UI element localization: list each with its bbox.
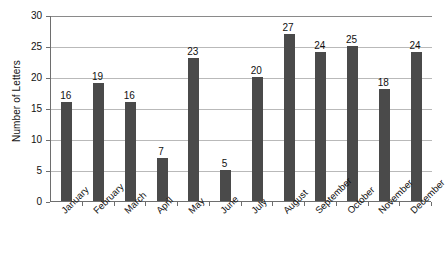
y-axis-tick-mark <box>46 202 50 203</box>
bar-value-label: 24 <box>400 40 430 51</box>
bar-value-label: 23 <box>178 46 208 57</box>
y-axis-tick-mark <box>46 16 50 17</box>
y-axis-tick-label: 5 <box>22 166 42 176</box>
bar-value-label: 5 <box>210 158 240 169</box>
x-axis-tick-mark <box>304 202 305 206</box>
y-axis-tick-mark <box>46 109 50 110</box>
y-axis-tick-label: 10 <box>22 135 42 145</box>
y-axis-tick-label: 25 <box>22 42 42 52</box>
bar-value-label: 20 <box>241 65 271 76</box>
bar-value-label: 7 <box>146 146 176 157</box>
gridline <box>51 171 432 172</box>
x-axis-tick-mark <box>336 202 337 206</box>
x-axis-tick-mark <box>368 202 369 206</box>
bar-value-label: 27 <box>273 22 303 33</box>
y-axis-tick-mark <box>46 47 50 48</box>
x-axis-tick-mark <box>209 202 210 206</box>
gridline <box>51 47 432 48</box>
x-axis-tick-mark <box>241 202 242 206</box>
bar <box>379 89 390 201</box>
bar <box>252 77 263 201</box>
y-axis-tick-mark <box>46 140 50 141</box>
bar <box>93 83 104 201</box>
bar-value-label: 16 <box>51 90 81 101</box>
x-axis-tick-mark <box>431 202 432 206</box>
y-axis-tick-label: 30 <box>22 11 42 21</box>
x-axis-tick-mark <box>399 202 400 206</box>
bar <box>411 52 422 201</box>
y-axis-tick-label: 0 <box>22 197 42 207</box>
plot-area <box>50 16 431 202</box>
bar <box>284 34 295 201</box>
bar-value-label: 18 <box>368 77 398 88</box>
x-axis-tick-mark <box>177 202 178 206</box>
bar-chart: Number of Letters 051015202530 16January… <box>0 0 448 266</box>
x-axis-tick-mark <box>145 202 146 206</box>
x-axis-tick-mark <box>272 202 273 206</box>
bar <box>188 58 199 201</box>
x-axis-tick-mark <box>114 202 115 206</box>
bar <box>315 52 326 201</box>
y-axis-tick-label: 20 <box>22 73 42 83</box>
bar-value-label: 25 <box>337 34 367 45</box>
x-axis-tick-mark <box>82 202 83 206</box>
gridline <box>51 16 432 17</box>
y-axis-tick-labels: 051015202530 <box>22 0 42 266</box>
bar-value-label: 16 <box>114 90 144 101</box>
bar-value-label: 24 <box>305 40 335 51</box>
bar <box>125 102 136 201</box>
bar-value-label: 19 <box>83 71 113 82</box>
y-axis-tick-mark <box>46 78 50 79</box>
y-axis-tick-mark <box>46 171 50 172</box>
gridline <box>51 140 432 141</box>
y-axis-tick-label: 15 <box>22 104 42 114</box>
bar <box>61 102 72 201</box>
gridline <box>51 109 432 110</box>
